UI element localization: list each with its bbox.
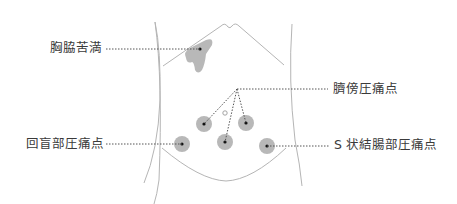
navel-icon (223, 111, 227, 115)
rib-cage-outline (163, 24, 284, 66)
abdomen-illustration (0, 0, 457, 204)
label-sigmoid-tenderness: S 状結腸部圧痛点 (334, 139, 437, 152)
label-paraumbilical-tenderness: 臍傍圧痛点 (333, 83, 398, 96)
tenderness-spots (174, 115, 275, 154)
label-chest-fullness: 胸脇苦満 (50, 42, 102, 55)
chest-fullness-area (185, 39, 212, 72)
label-ileocecal-tenderness: 回盲部圧痛点 (26, 138, 104, 151)
leader-lines (106, 49, 330, 146)
torso-right-outline (291, 24, 302, 186)
abdomen-diagram: 胸脇苦満 臍傍圧痛点 回盲部圧痛点 S 状結腸部圧痛点 (0, 0, 457, 204)
